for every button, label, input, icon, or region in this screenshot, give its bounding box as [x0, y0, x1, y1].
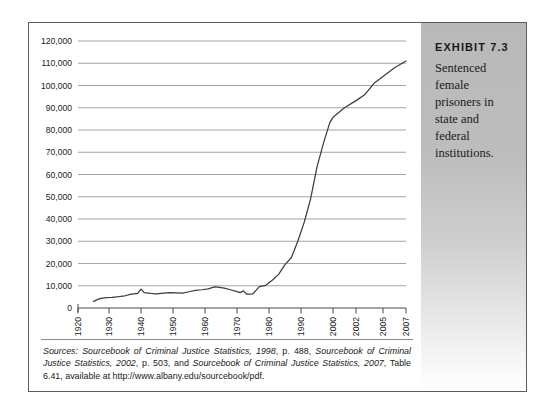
sources-ref-1-page: , p. 488,	[276, 346, 316, 356]
x-axis-tick-label: 2007	[401, 317, 411, 336]
exhibit-title: EXHIBIT 7.3	[435, 41, 514, 53]
x-axis-tick-label: 1950	[168, 317, 178, 336]
y-axis-tick-label: 50,000	[46, 192, 73, 202]
x-axis-tick-label: 2000	[328, 317, 338, 336]
y-axis-tick-label: 100,000	[41, 81, 72, 91]
gridlines-group	[78, 41, 406, 286]
sources-note: Sources: Sourcebook of Criminal Justice …	[43, 345, 411, 382]
x-axis-group	[78, 304, 406, 314]
y-axis-tick-label: 70,000	[46, 147, 73, 157]
x-axis-tick-label: 2002	[351, 317, 361, 336]
x-axis-tick-label: 1990	[296, 317, 306, 336]
sources-ref-1: Sourcebook of Criminal Justice Statistic…	[82, 346, 276, 356]
y-axis-tick-label: 80,000	[46, 125, 73, 135]
sources-divider	[41, 339, 413, 340]
x-axis-tick-label: 2005	[378, 317, 388, 336]
y-axis-tick-label: 30,000	[46, 236, 73, 246]
x-axis-tick-label: 1980	[264, 317, 274, 336]
y-axis-tick-labels: 120,000110,000100,00090,00080,00070,0006…	[41, 36, 72, 313]
exhibit-side-panel: EXHIBIT 7.3 Sentenced female prisoners i…	[421, 23, 526, 391]
x-axis-tick-label: 1960	[200, 317, 210, 336]
y-axis-tick-label: 0	[67, 303, 72, 313]
sources-ref-3: Sourcebook of Criminal Justice Statistic…	[193, 358, 384, 368]
x-axis-tick-label: 1940	[136, 317, 146, 336]
line-chart-svg: 120,000110,000100,00090,00080,00070,0006…	[29, 23, 423, 391]
sources-label: Sources:	[43, 346, 78, 356]
y-axis-tick-label: 60,000	[46, 170, 73, 180]
y-axis-tick-label: 120,000	[41, 36, 72, 46]
chart-plot-area: 120,000110,000100,00090,00080,00070,0006…	[29, 23, 423, 391]
y-axis-tick-label: 10,000	[46, 281, 73, 291]
y-axis-tick-label: 40,000	[46, 214, 73, 224]
figure-frame: 120,000110,000100,00090,00080,00070,0006…	[28, 22, 527, 392]
x-axis-tick-labels: 1920193019401950196019701980199020002002…	[73, 317, 411, 336]
x-axis-tick-label: 1970	[232, 317, 242, 336]
y-axis-tick-label: 90,000	[46, 103, 73, 113]
sources-ref-2-page: , p. 503, and	[136, 358, 193, 368]
x-axis-tick-label: 1920	[73, 317, 83, 336]
exhibit-caption: Sentenced female prisoners in state and …	[435, 60, 514, 162]
data-line-series	[94, 61, 407, 301]
x-axis-tick-label: 1930	[104, 317, 114, 336]
y-axis-tick-label: 110,000	[42, 58, 73, 68]
y-axis-tick-label: 20,000	[46, 259, 73, 269]
exhibit-figure: 120,000110,000100,00090,00080,00070,0006…	[0, 0, 553, 416]
